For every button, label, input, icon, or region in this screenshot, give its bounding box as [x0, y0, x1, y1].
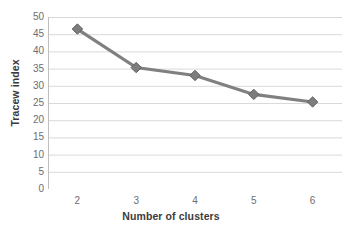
x-axis-tick-labels: 23456 — [48, 193, 342, 209]
data-line — [77, 29, 312, 102]
x-tick-label: 5 — [239, 195, 269, 207]
x-tick-label: 4 — [180, 195, 210, 207]
chart-canvas — [48, 17, 342, 189]
chart-figure: Tracew index 50454035302520151050 23456 … — [0, 0, 342, 233]
data-point-marker — [190, 70, 200, 80]
data-markers — [72, 24, 318, 107]
y-tick-label: 30 — [18, 81, 44, 91]
x-tick-label: 3 — [121, 195, 151, 207]
y-tick-label: 10 — [18, 150, 44, 160]
y-tick-label: 5 — [18, 167, 44, 177]
y-tick-label: 20 — [18, 115, 44, 125]
plot-area — [48, 17, 342, 189]
series-line — [77, 29, 312, 102]
data-point-marker — [307, 97, 317, 107]
y-tick-label: 45 — [18, 29, 44, 39]
y-axis-tick-labels: 50454035302520151050 — [18, 0, 44, 233]
x-tick-label: 6 — [298, 195, 328, 207]
x-tick-label: 2 — [62, 195, 92, 207]
x-axis-title: Number of clusters — [0, 210, 342, 222]
y-tick-label: 35 — [18, 64, 44, 74]
gridlines — [48, 18, 342, 190]
y-tick-label: 40 — [18, 46, 44, 56]
y-tick-label: 25 — [18, 98, 44, 108]
y-tick-label: 0 — [18, 184, 44, 194]
data-point-marker — [249, 89, 259, 99]
y-tick-label: 50 — [18, 12, 44, 22]
y-tick-label: 15 — [18, 132, 44, 142]
